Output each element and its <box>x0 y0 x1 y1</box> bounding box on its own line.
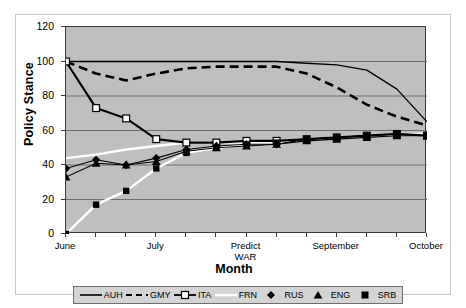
x-tick-label: October <box>388 240 464 251</box>
marker-ITA <box>183 139 190 146</box>
legend-key-icon <box>307 290 329 300</box>
legend-item-frn[interactable]: FRN <box>215 290 258 300</box>
series-line-AUH <box>66 62 427 122</box>
x-tick-mark <box>125 233 126 237</box>
x-tick-label-line1: June <box>27 240 103 251</box>
x-tick-mark <box>306 233 307 237</box>
x-tick-mark <box>95 233 96 237</box>
y-tick-label: 60 <box>24 125 54 135</box>
chart-legend: AUHGMYITAFRNRUSENGSRB <box>73 286 403 304</box>
legend-label: ITA <box>198 290 211 300</box>
x-tick-mark <box>396 233 397 237</box>
marker-RUS <box>66 164 70 172</box>
plot-area <box>65 26 426 233</box>
series-canvas <box>66 27 427 234</box>
legend-item-ita[interactable]: ITA <box>174 290 211 300</box>
marker-SRB <box>364 132 370 138</box>
legend-label: ENG <box>331 290 351 300</box>
x-tick-mark <box>215 233 216 237</box>
legend-item-auh[interactable]: AUH <box>80 290 123 300</box>
x-tick-label-line1: September <box>298 240 374 251</box>
marker-SRB <box>93 201 99 207</box>
legend-key-icon <box>354 290 376 300</box>
legend-key-icon <box>126 290 148 300</box>
x-tick-label: June <box>27 240 103 251</box>
x-tick-label: July <box>117 240 193 251</box>
x-tick-label-line2: WAR <box>208 251 284 262</box>
legend-item-rus[interactable]: RUS <box>260 290 303 300</box>
x-tick-label: September <box>298 240 374 251</box>
y-tick-label: 20 <box>24 194 54 204</box>
legend-item-srb[interactable]: SRB <box>354 290 397 300</box>
marker-ITA <box>93 105 100 112</box>
marker-SRB <box>273 139 279 145</box>
x-tick-mark <box>336 233 337 237</box>
marker-SRB <box>424 132 427 138</box>
legend-item-gmy[interactable]: GMY <box>126 290 171 300</box>
marker-SRB <box>183 150 189 156</box>
x-tick-mark <box>185 233 186 237</box>
marker-SRB <box>123 188 129 194</box>
marker-SRB <box>213 145 219 151</box>
x-tick-label-line1: July <box>117 240 193 251</box>
plot-wrapper: Policy Stance 120100806040200 JuneJulyPr… <box>16 15 452 296</box>
chart-container: Policy Stance 120100806040200 JuneJulyPr… <box>15 14 451 295</box>
x-tick-mark <box>155 233 156 237</box>
marker-SRB <box>303 136 309 142</box>
marker-SRB <box>334 134 340 140</box>
y-tick-label: 0 <box>24 228 54 238</box>
x-tick-label-line1: October <box>388 240 464 251</box>
legend-label: FRN <box>239 290 258 300</box>
y-tick-label: 80 <box>24 90 54 100</box>
marker-SRB <box>243 141 249 147</box>
x-tick-mark <box>366 233 367 237</box>
legend-key-icon <box>80 290 102 300</box>
x-tick-mark <box>65 233 66 237</box>
marker-SRB <box>153 165 159 171</box>
marker-SRB <box>394 131 400 137</box>
marker-ITA <box>153 136 160 143</box>
x-tick-label: PredictWAR <box>208 240 284 262</box>
marker-ITA <box>123 115 130 122</box>
gridlines <box>66 62 427 200</box>
x-tick-mark <box>276 233 277 237</box>
marker-ENG <box>66 173 70 181</box>
y-tick-label: 120 <box>24 21 54 31</box>
legend-label: SRB <box>378 290 397 300</box>
x-axis-title: Month <box>16 262 452 276</box>
legend-label: AUH <box>104 290 123 300</box>
legend-label: RUS <box>284 290 303 300</box>
marker-ITA <box>66 58 69 65</box>
y-axis-title: Policy Stance <box>18 9 40 199</box>
x-tick-mark <box>246 233 247 237</box>
legend-item-eng[interactable]: ENG <box>307 290 351 300</box>
legend-key-icon <box>174 290 196 300</box>
legend-key-icon <box>260 290 282 300</box>
y-tick-label: 100 <box>24 56 54 66</box>
x-tick-mark <box>426 233 427 237</box>
x-tick-label-line1: Predict <box>208 240 284 251</box>
y-tick-label: 40 <box>24 159 54 169</box>
data-series-group <box>66 58 427 234</box>
legend-key-icon <box>215 290 237 300</box>
marker-SRB <box>66 231 69 234</box>
legend-label: GMY <box>150 290 171 300</box>
